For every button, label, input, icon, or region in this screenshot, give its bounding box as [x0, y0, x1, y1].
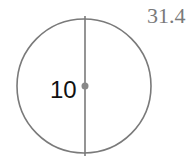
center-dot	[82, 83, 89, 90]
diameter-label: 10	[50, 76, 77, 104]
circumference-value: 31.4	[147, 3, 186, 29]
